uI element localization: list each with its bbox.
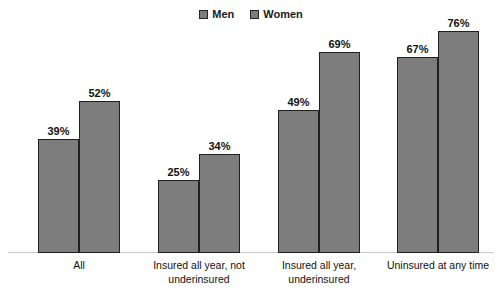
plot-area: 39% 52% 25% 34% (0, 24, 502, 253)
bar-wrap-all-men: 39% (38, 24, 79, 253)
x-axis-label-uninsured-any-time-line1: Uninsured at any time (373, 258, 502, 272)
x-axis-label-insured-not-underinsured-line2: underinsured (134, 272, 264, 286)
x-axis-label-all: All (14, 258, 144, 272)
bar-wrap-insured-not-underinsured-women: 34% (199, 24, 240, 253)
bar-insured-not-underinsured-women[interactable] (199, 154, 240, 253)
bar-group-insured-not-underinsured: 25% 34% (158, 24, 240, 253)
bar-insured-underinsured-men[interactable] (278, 110, 319, 253)
bar-wrap-insured-underinsured-women: 69% (319, 24, 360, 253)
bar-wrap-insured-not-underinsured-men: 25% (158, 24, 199, 253)
x-axis-label-all-line1: All (14, 258, 144, 272)
bar-group-insured-underinsured: 49% 69% (278, 24, 360, 253)
bar-wrap-insured-underinsured-men: 49% (278, 24, 319, 253)
bar-label-insured-underinsured-men: 49% (278, 96, 319, 108)
bar-wrap-uninsured-any-time-men: 67% (397, 24, 438, 253)
bar-insured-not-underinsured-men[interactable] (158, 180, 199, 253)
legend-label-men: Men (212, 9, 234, 20)
bar-chart: Men Women 39% 52% 25% (0, 0, 502, 302)
bar-all-men[interactable] (38, 139, 79, 253)
bar-insured-underinsured-women[interactable] (319, 52, 360, 253)
x-axis-label-insured-underinsured-line1: Insured all year, (254, 258, 384, 272)
legend-item-men[interactable]: Men (199, 9, 234, 20)
bar-label-uninsured-any-time-men: 67% (397, 43, 438, 55)
x-axis-label-insured-not-underinsured: Insured all year, not underinsured (134, 258, 264, 286)
bar-all-women[interactable] (79, 101, 120, 253)
bar-label-insured-not-underinsured-men: 25% (158, 166, 199, 178)
bar-wrap-all-women: 52% (79, 24, 120, 253)
bar-label-insured-not-underinsured-women: 34% (199, 140, 240, 152)
x-axis-label-uninsured-any-time: Uninsured at any time (373, 258, 502, 272)
legend-label-women: Women (263, 9, 303, 20)
x-axis-label-insured-not-underinsured-line1: Insured all year, not (134, 258, 264, 272)
legend-item-women[interactable]: Women (250, 9, 303, 20)
bar-uninsured-any-time-men[interactable] (397, 57, 438, 253)
bar-label-all-men: 39% (38, 125, 79, 137)
bar-group-uninsured-any-time: 67% 76% (397, 24, 479, 253)
x-axis-label-insured-underinsured: Insured all year, underinsured (254, 258, 384, 286)
legend-swatch-women-icon (250, 10, 259, 19)
bar-label-insured-underinsured-women: 69% (319, 38, 360, 50)
chart-legend: Men Women (0, 4, 502, 24)
x-axis-labels: All Insured all year, not underinsured I… (0, 258, 502, 302)
bar-label-uninsured-any-time-women: 76% (438, 17, 479, 29)
bar-group-all: 39% 52% (38, 24, 120, 253)
legend-swatch-men-icon (199, 10, 208, 19)
bar-uninsured-any-time-women[interactable] (438, 31, 479, 253)
bar-wrap-uninsured-any-time-women: 76% (438, 24, 479, 253)
x-axis-label-insured-underinsured-line2: underinsured (254, 272, 384, 286)
bar-label-all-women: 52% (79, 87, 120, 99)
